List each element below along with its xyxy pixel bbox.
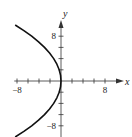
y-tick-label: −8 (46, 121, 56, 131)
x-tick-label: −8 (12, 85, 22, 95)
x-axis-arrow (116, 79, 124, 84)
tick-labels: −888−8xy (12, 8, 130, 131)
y-tick-label: 8 (52, 31, 57, 41)
axes (14, 20, 124, 137)
y-axis-label: y (62, 8, 68, 19)
x-tick-label: 8 (103, 85, 108, 95)
parabola-chart: −888−8xy (0, 0, 132, 137)
y-axis-arrow (59, 20, 64, 28)
x-axis-label: x (124, 76, 130, 87)
